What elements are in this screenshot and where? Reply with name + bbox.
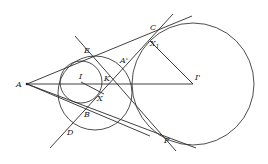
- label-X: X: [96, 94, 103, 103]
- label-B: B: [83, 110, 90, 119]
- label-A: A: [15, 80, 22, 89]
- label-E: E: [83, 46, 90, 55]
- geometry-diagram: A I I' E K A' X B D C X1 F: [0, 0, 268, 164]
- label-K: K: [103, 74, 111, 83]
- line-E-F: [75, 36, 176, 151]
- label-C: C: [150, 23, 156, 32]
- label-A-prime: A': [119, 56, 128, 65]
- label-I-prime: I': [194, 73, 200, 82]
- label-D: D: [66, 128, 74, 137]
- label-X1-sub: 1: [156, 43, 160, 49]
- label-I: I: [78, 72, 83, 81]
- label-F: F: [163, 136, 170, 145]
- tangent-line-lower: [27, 84, 196, 148]
- point-A-dot: [26, 83, 29, 86]
- label-X1: X1: [149, 39, 159, 49]
